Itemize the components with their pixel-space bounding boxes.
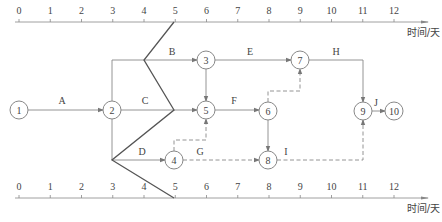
network-diagram: 0123456789101112时间/天 0123456789101112时间/… xyxy=(0,0,442,222)
activity-label: I xyxy=(284,146,287,157)
activity-label: H xyxy=(332,46,339,57)
node-label: 3 xyxy=(204,55,209,66)
node-label: 9 xyxy=(361,106,366,117)
activity-label: F xyxy=(231,95,237,106)
activity-label: E xyxy=(247,46,253,57)
axis-tick-label: 0 xyxy=(17,5,22,16)
node-10: 10 xyxy=(385,102,403,120)
axis-tick-label: 2 xyxy=(79,181,84,192)
activity-arrow-H xyxy=(309,60,363,102)
node-label: 5 xyxy=(204,105,209,116)
top-time-axis: 0123456789101112时间/天 xyxy=(15,5,440,38)
node-label: 7 xyxy=(298,55,303,66)
axis-tick-label: 0 xyxy=(17,181,22,192)
axis-tick-label: 12 xyxy=(389,181,399,192)
axis-unit-label: 时间/天 xyxy=(407,26,440,38)
node-7: 7 xyxy=(291,51,309,69)
node-9: 9 xyxy=(354,102,372,120)
axis-tick-label: 6 xyxy=(204,181,209,192)
node-8: 8 xyxy=(259,151,277,169)
node-3: 3 xyxy=(197,51,215,69)
node-6: 6 xyxy=(259,102,277,120)
axis-tick-label: 1 xyxy=(48,5,53,16)
axis-tick-label: 9 xyxy=(298,181,303,192)
axis-tick-label: 5 xyxy=(173,5,178,16)
axis-tick-label: 4 xyxy=(142,5,147,16)
node-2: 2 xyxy=(103,101,121,119)
activity-arrow-6-7 xyxy=(268,69,300,102)
node-label: 10 xyxy=(389,106,399,117)
node-label: 8 xyxy=(266,155,271,166)
activity-label: J xyxy=(374,97,378,108)
activity-label: G xyxy=(196,146,203,157)
axis-tick-label: 5 xyxy=(173,181,178,192)
axis-tick-label: 1 xyxy=(48,181,53,192)
axis-tick-label: 2 xyxy=(79,5,84,16)
node-label: 6 xyxy=(266,106,271,117)
axis-tick-label: 10 xyxy=(327,5,337,16)
node-1: 1 xyxy=(10,101,28,119)
axis-tick-label: 3 xyxy=(110,5,115,16)
axis-tick-label: 4 xyxy=(142,181,147,192)
node-label: 1 xyxy=(17,105,22,116)
axis-tick-label: 3 xyxy=(110,181,115,192)
activity-label: C xyxy=(142,95,149,106)
node-label: 4 xyxy=(172,155,177,166)
activity-arrow-B xyxy=(112,60,197,101)
axis-tick-label: 8 xyxy=(267,5,272,16)
axis-tick-label: 11 xyxy=(358,5,368,16)
axis-tick-label: 11 xyxy=(358,181,368,192)
node-4: 4 xyxy=(165,151,183,169)
axis-tick-label: 6 xyxy=(204,5,209,16)
activity-label: D xyxy=(138,146,145,157)
axis-tick-label: 12 xyxy=(389,5,399,16)
axis-tick-label: 9 xyxy=(298,5,303,16)
node-5: 5 xyxy=(197,101,215,119)
axis-unit-label: 时间/天 xyxy=(407,202,440,214)
node-label: 2 xyxy=(110,105,115,116)
bottom-time-axis: 0123456789101112时间/天 xyxy=(15,181,440,214)
axis-tick-label: 7 xyxy=(235,181,240,192)
activity-label: A xyxy=(58,95,66,106)
axis-tick-label: 7 xyxy=(235,5,240,16)
activity-label: B xyxy=(169,46,176,57)
axis-tick-label: 10 xyxy=(327,181,337,192)
axis-tick-label: 8 xyxy=(267,181,272,192)
activity-arrow-I xyxy=(277,120,363,160)
